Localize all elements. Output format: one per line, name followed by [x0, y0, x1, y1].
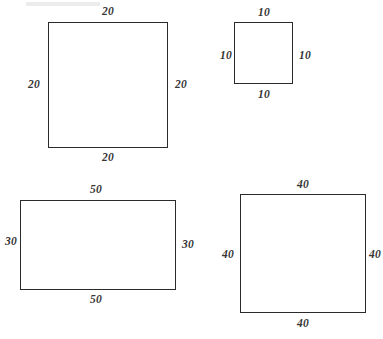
diagram-canvas: 20 20 20 20 10 10 10 10 50 30 50 30 40 4…: [0, 0, 383, 339]
shape-square-10-label-bottom: 10: [258, 89, 270, 101]
shape-square-40-label-left: 40: [222, 249, 234, 261]
shape-square-20-label-left: 20: [28, 79, 40, 91]
shape-square-40-label-right: 40: [369, 249, 381, 261]
shape-rectangle-50x30-label-bottom: 50: [90, 294, 102, 306]
shape-square-40-label-top: 40: [297, 179, 309, 191]
shape-square-10-label-right: 10: [299, 50, 311, 62]
shape-square-40: [240, 194, 366, 313]
shape-square-20-label-right: 20: [175, 79, 187, 91]
shape-rectangle-50x30-label-top: 50: [90, 184, 102, 196]
shape-square-10: [234, 22, 293, 84]
shape-rectangle-50x30-label-left: 30: [5, 236, 17, 248]
shape-square-10-label-left: 10: [220, 50, 232, 62]
scan-artifact-smudge: [26, 2, 100, 6]
shape-square-20: [48, 22, 168, 148]
shape-rectangle-50x30: [20, 200, 176, 290]
shape-square-10-label-top: 10: [258, 7, 270, 19]
shape-square-20-label-bottom: 20: [102, 152, 114, 164]
shape-square-20-label-top: 20: [102, 6, 114, 18]
shape-rectangle-50x30-label-right: 30: [182, 239, 194, 251]
shape-square-40-label-bottom: 40: [297, 318, 309, 330]
